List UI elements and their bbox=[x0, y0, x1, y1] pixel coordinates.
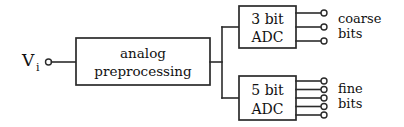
block-fine-adc: 5 bit ADC bbox=[239, 76, 296, 120]
fine-output-terminal-4 bbox=[321, 104, 327, 110]
input-label-subscript: i bbox=[36, 61, 40, 74]
coarse-adc-label-line1: 3 bit bbox=[251, 11, 284, 27]
block-diagram-figure: V i analog preprocessing 3 bbox=[0, 0, 404, 127]
coarse-output-terminal-1 bbox=[321, 10, 327, 16]
fine-output-label: fine bits bbox=[338, 81, 363, 111]
coarse-output-label: coarse bits bbox=[338, 11, 382, 41]
coarse-label-line2: bits bbox=[338, 26, 362, 41]
fine-output-terminal-1 bbox=[321, 78, 327, 84]
coarse-output-lines bbox=[296, 10, 327, 44]
fine-output-terminal-3 bbox=[321, 95, 327, 101]
diagram-canvas: V i analog preprocessing 3 bbox=[0, 0, 404, 127]
fine-adc-label-line1: 5 bit bbox=[251, 82, 284, 98]
input-label-main: V bbox=[21, 50, 35, 70]
coarse-label-line1: coarse bbox=[338, 11, 382, 26]
fine-output-terminal-2 bbox=[321, 87, 327, 93]
input-group: V i bbox=[21, 50, 76, 74]
input-terminal-circle bbox=[46, 59, 52, 65]
branch-wires bbox=[210, 27, 239, 98]
preprocessing-label-line1: analog bbox=[120, 45, 166, 61]
fine-label-line2: bits bbox=[338, 96, 362, 111]
coarse-adc-label-line2: ADC bbox=[250, 29, 283, 45]
coarse-output-terminal-2 bbox=[321, 24, 327, 30]
block-preprocessing: analog preprocessing bbox=[76, 38, 210, 85]
coarse-output-terminal-3 bbox=[321, 38, 327, 44]
fine-output-lines bbox=[296, 78, 327, 118]
fine-label-line1: fine bbox=[338, 81, 363, 96]
fine-adc-label-line2: ADC bbox=[250, 101, 283, 117]
block-coarse-adc: 3 bit ADC bbox=[239, 6, 296, 48]
fine-output-terminal-5 bbox=[321, 112, 327, 118]
preprocessing-label-line2: preprocessing bbox=[94, 63, 192, 79]
